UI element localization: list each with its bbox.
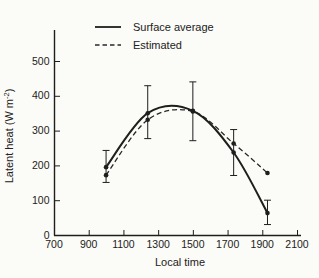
- y-tick-label: 300: [32, 124, 50, 136]
- data-point: [145, 118, 150, 123]
- data-point: [231, 141, 236, 146]
- y-tick-label: 400: [32, 89, 50, 101]
- data-point: [104, 173, 109, 178]
- data-point: [145, 111, 150, 116]
- latent-heat-chart: 7009001100130015001700190021000100200300…: [0, 0, 319, 278]
- data-point: [231, 150, 236, 155]
- x-axis-title: Local time: [155, 256, 205, 268]
- y-axis-title: Latent heat (W m-2): [2, 89, 15, 184]
- y-axis-title-superscript: -2: [2, 92, 11, 99]
- plot-area: 7009001100130015001700190021000100200300…: [32, 55, 309, 251]
- legend-label-estimated: Estimated: [133, 39, 182, 51]
- x-tick-label: 2100: [285, 238, 309, 250]
- series-curve-solid: [106, 106, 267, 213]
- data-point: [191, 109, 196, 114]
- x-tick-label: 1700: [216, 238, 240, 250]
- data-point: [265, 171, 270, 176]
- y-tick-label: 200: [32, 159, 50, 171]
- series-curve-dashed: [106, 110, 267, 176]
- x-tick-label: 1900: [251, 238, 275, 250]
- legend: Surface average Estimated: [95, 21, 214, 51]
- figure-latent-heat: 7009001100130015001700190021000100200300…: [0, 0, 319, 278]
- x-tick-label: 1500: [181, 238, 205, 250]
- x-tick-label: 1100: [112, 238, 135, 250]
- data-point: [265, 211, 270, 216]
- y-tick-label: 0: [44, 229, 50, 241]
- y-axis-title-close: ): [3, 89, 15, 93]
- legend-label-surface-average: Surface average: [133, 21, 214, 33]
- y-tick-label: 100: [32, 194, 50, 206]
- x-tick-label: 900: [80, 238, 98, 250]
- x-tick-label: 1300: [146, 238, 170, 250]
- y-tick-label: 500: [32, 55, 50, 67]
- y-axis-title-base: Latent heat (W m: [3, 99, 15, 183]
- data-point: [104, 165, 109, 170]
